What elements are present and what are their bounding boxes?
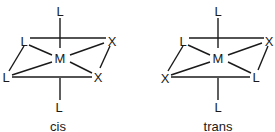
cis-caption: cis xyxy=(50,119,66,132)
cis-back-right-ligand: X xyxy=(108,34,117,49)
cis-top-ligand: L xyxy=(56,4,63,19)
trans-top-ligand: L xyxy=(214,4,221,19)
left-edge xyxy=(9,46,24,71)
left-edge xyxy=(168,46,183,71)
octahedral-isomers-diagram: L M L X L X L cis L M L X X L L trans xyxy=(0,0,275,132)
cis-front-right-ligand: X xyxy=(94,70,103,85)
bond-m-back-left xyxy=(188,45,210,55)
trans-bottom-ligand: L xyxy=(214,100,221,115)
right-edge xyxy=(258,46,268,70)
cis-metal-center: M xyxy=(55,51,66,66)
bond-m-back-right xyxy=(70,43,104,55)
trans-back-right-ligand: X xyxy=(265,34,274,49)
trans-front-left-ligand: X xyxy=(161,71,170,86)
bond-m-front-left xyxy=(12,62,52,75)
bond-m-back-right xyxy=(228,43,262,55)
right-edge xyxy=(100,46,110,68)
bond-m-front-right xyxy=(70,62,92,73)
trans-isomer: L M L X X L L trans xyxy=(161,4,274,132)
trans-metal-center: M xyxy=(213,51,224,66)
trans-front-right-ligand: L xyxy=(252,70,259,85)
bond-m-back-left xyxy=(29,45,52,55)
bond-m-front-right xyxy=(228,62,251,73)
cis-back-left-ligand: L xyxy=(20,34,27,49)
cis-front-left-ligand: L xyxy=(2,70,9,85)
trans-caption: trans xyxy=(204,119,233,132)
trans-back-left-ligand: L xyxy=(179,34,186,49)
bond-m-front-left xyxy=(171,62,210,75)
cis-isomer: L M L X L X L cis xyxy=(2,4,116,132)
cis-bottom-ligand: L xyxy=(55,100,62,115)
